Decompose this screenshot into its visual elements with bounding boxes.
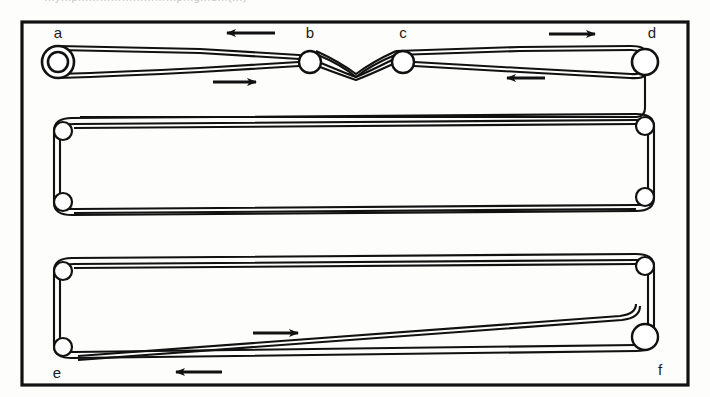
belt-middle-inner: [60, 120, 648, 209]
pulley-middle-bottom-right: [636, 188, 654, 206]
pulley-c: [392, 51, 414, 73]
direction-arrows: [176, 33, 595, 372]
pulley-middle-top-right: [636, 117, 654, 135]
pulley-middle-top-left: [54, 122, 72, 140]
belt-bottom: [54, 254, 654, 360]
belt-d-descend: [80, 52, 645, 117]
label-c: c: [399, 24, 407, 41]
belt-bottom-inner: [60, 260, 648, 352]
pulley-f: [632, 324, 658, 350]
belt-top-upper-left: [58, 46, 321, 63]
belt-bottom-outer: [54, 254, 654, 358]
label-b: b: [306, 24, 314, 41]
belt-top-upper-left-inner: [58, 50, 320, 67]
belt-top: [58, 46, 645, 117]
pulley-bottom-top-left: [54, 262, 72, 280]
pulley-middle-bottom-left: [54, 193, 72, 211]
belt-drive-diagram: a b c d e f: [0, 0, 710, 397]
pulley-a-inner-ring: [48, 52, 68, 72]
pulley-b: [299, 51, 321, 73]
pulley-d: [632, 49, 658, 75]
label-f: f: [658, 361, 663, 378]
belt-bottom-taper-top: [74, 264, 636, 268]
pulley-e: [54, 338, 72, 356]
pulley-bottom-top-right: [636, 257, 654, 275]
belt-middle-taper-top: [74, 124, 636, 128]
pulley-group: [42, 46, 658, 356]
label-a: a: [54, 24, 63, 41]
label-d: d: [648, 24, 656, 41]
pulley-labels: a b c d e f: [53, 24, 663, 381]
figure-root: …y…p………………………p…g…d…(…): [0, 0, 710, 397]
belt-middle-outer: [54, 114, 654, 215]
label-e: e: [53, 364, 61, 381]
pulley-a: [42, 46, 74, 78]
belt-middle: [54, 114, 654, 215]
